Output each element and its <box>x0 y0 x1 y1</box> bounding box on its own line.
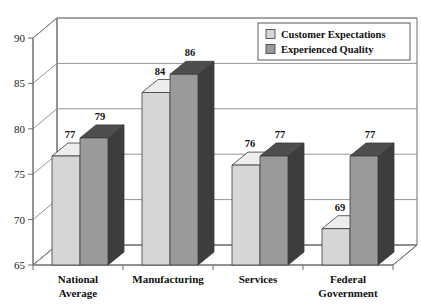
legend-swatch-icon <box>266 45 275 54</box>
y-tick-label-90: 90 <box>14 32 26 44</box>
value-label-services-customer-expectations: 76 <box>245 138 256 149</box>
value-label-national-average-experienced-quality: 79 <box>95 111 106 122</box>
gridline-connector-90 <box>33 18 57 38</box>
category-label-services-line1: Services <box>239 273 278 285</box>
legend[interactable]: Customer Expectations Experienced Qualit… <box>258 23 410 60</box>
bar-federal-government-experienced-quality[interactable] <box>350 143 394 265</box>
bar-front-face <box>322 229 350 265</box>
bar-front-face <box>232 165 260 265</box>
value-label-services-experienced-quality: 77 <box>275 129 286 140</box>
bar-side-face <box>198 61 214 265</box>
y-tick-label-70: 70 <box>14 214 26 226</box>
bar-chart: 90 85 80 75 70 65 <box>0 0 421 305</box>
category-label-manufacturing-line1: Manufacturing <box>132 273 204 285</box>
value-label-federal-government-experienced-quality: 77 <box>365 129 376 140</box>
chart-canvas: 90 85 80 75 70 65 <box>0 0 421 305</box>
legend-label-customer-expectations: Customer Expectations <box>281 29 386 40</box>
y-axis: 90 85 80 75 70 65 <box>14 32 33 271</box>
y-tick-label-65: 65 <box>14 259 26 271</box>
legend-swatch-icon <box>266 30 275 39</box>
category-labels: National Average Manufacturing Services … <box>58 273 378 299</box>
legend-entry-experienced-quality[interactable]: Experienced Quality <box>266 44 374 55</box>
bar-national-average-experienced-quality[interactable] <box>80 125 124 265</box>
value-label-manufacturing-customer-expectations: 84 <box>155 66 166 77</box>
category-label-federal-government-line1: Federal <box>330 273 366 285</box>
legend-label-experienced-quality: Experienced Quality <box>281 44 374 55</box>
bar-front-face <box>170 74 198 265</box>
bar-front-face <box>350 156 378 265</box>
legend-entry-customer-expectations[interactable]: Customer Expectations <box>266 29 386 40</box>
y-tick-label-80: 80 <box>14 123 26 135</box>
bar-front-face <box>142 93 170 266</box>
category-label-national-average-line2: Average <box>59 287 97 299</box>
category-label-federal-government-line2: Government <box>318 287 378 299</box>
value-label-manufacturing-experienced-quality: 86 <box>185 47 196 58</box>
bar-manufacturing-experienced-quality[interactable] <box>170 61 214 265</box>
gridline-connector-85 <box>33 63 57 83</box>
bar-services-experienced-quality[interactable] <box>260 143 304 265</box>
bar-front-face <box>260 156 288 265</box>
floor-right-edge <box>393 245 417 265</box>
y-tick-label-75: 75 <box>14 168 26 180</box>
value-label-national-average-customer-expectations: 77 <box>65 129 76 140</box>
bar-side-face <box>288 143 304 265</box>
y-tick-label-85: 85 <box>14 77 26 89</box>
bar-front-face <box>80 138 108 265</box>
category-label-national-average-line1: National <box>58 273 98 285</box>
gridline-connector-80 <box>33 109 57 129</box>
bar-side-face <box>108 125 124 265</box>
bar-front-face <box>52 156 80 265</box>
bar-side-face <box>378 143 394 265</box>
value-label-federal-government-customer-expectations: 69 <box>335 202 346 213</box>
